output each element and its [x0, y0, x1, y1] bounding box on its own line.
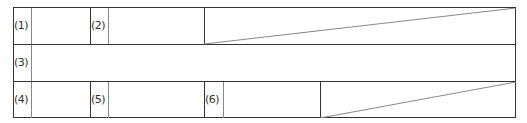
strike-diagonal [320, 82, 516, 118]
field-4-input[interactable] [32, 82, 90, 118]
field-label-6: (6) [205, 93, 219, 107]
field-1-input[interactable] [32, 8, 90, 44]
field-label-1: (1) [14, 19, 28, 33]
field-label-3: (3) [14, 56, 28, 70]
field-label-4: (4) [14, 93, 28, 107]
field-label-5: (5) [91, 93, 105, 107]
field-label-2: (2) [91, 19, 105, 33]
field-6-input[interactable] [224, 82, 320, 118]
field-2-input[interactable] [109, 8, 204, 44]
strike-diagonal [204, 8, 516, 45]
field-3-input[interactable] [32, 45, 516, 81]
field-5-input[interactable] [109, 82, 204, 118]
